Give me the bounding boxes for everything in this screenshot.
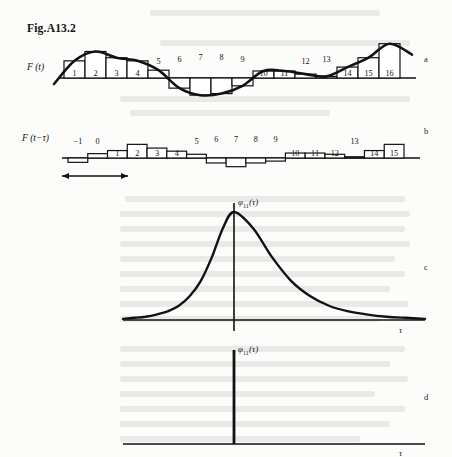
bar-index-label: 4 <box>175 149 179 158</box>
panel-d-tau-axis-label: τ <box>399 448 403 457</box>
bar-index-label: 0 <box>96 137 100 146</box>
bar-index-label: 12 <box>301 57 309 66</box>
bar-index-label: 10 <box>291 149 299 158</box>
bar <box>88 154 108 158</box>
bar-index-label: 7 <box>234 135 238 144</box>
panel-c: τ <box>123 203 425 335</box>
panel-c-autocorrelation-curve <box>123 212 425 319</box>
bar-index-label: 9 <box>240 55 244 64</box>
bar-index-label: 4 <box>135 69 139 78</box>
bar-index-label: 2 <box>135 149 139 158</box>
bar-index-label: 8 <box>254 135 258 144</box>
figure-vector-layer: 12345678910111213141516 −101234567891011… <box>0 0 452 457</box>
bar-index-label: 5 <box>194 137 198 146</box>
bar-index-label: 6 <box>177 55 181 64</box>
bar-index-label: 11 <box>311 149 319 158</box>
panel-a: 12345678910111213141516 <box>54 44 416 96</box>
bar-index-label: 5 <box>156 57 160 66</box>
panel-d: τ <box>123 350 425 457</box>
bar-index-label: 1 <box>115 149 119 158</box>
bar <box>226 158 246 167</box>
bar-index-label: 2 <box>93 69 97 78</box>
bar <box>68 158 88 162</box>
bar-index-label: 1 <box>72 69 76 78</box>
panel-b: −10123456789101112131415 <box>62 135 420 180</box>
bar-index-label: 13 <box>322 55 330 64</box>
bar-index-label: 16 <box>385 69 393 78</box>
bar-index-label: 15 <box>390 149 398 158</box>
bar-index-label: 9 <box>273 135 277 144</box>
bar-index-label: −1 <box>74 137 83 146</box>
bar <box>206 158 226 163</box>
bar-index-label: 6 <box>214 135 218 144</box>
bar-index-label: 14 <box>370 149 378 158</box>
time-shift-arrow <box>62 173 128 179</box>
bar-index-label: 13 <box>350 137 358 146</box>
bar-index-label: 3 <box>114 69 118 78</box>
bar <box>266 158 286 161</box>
bar-index-label: 15 <box>364 69 372 78</box>
bar-index-label: 12 <box>331 149 339 158</box>
bar <box>187 154 207 158</box>
bar <box>246 158 266 163</box>
bar-index-label: 7 <box>198 53 202 62</box>
bar-index-label: 3 <box>155 149 159 158</box>
bar-index-label: 8 <box>219 53 223 62</box>
figure-canvas: Fig.A13.2 F (t) F (t−τ) a b c d φ11(τ) φ… <box>0 0 452 457</box>
bar <box>345 157 365 158</box>
panel-c-tau-axis-label: τ <box>399 325 403 335</box>
